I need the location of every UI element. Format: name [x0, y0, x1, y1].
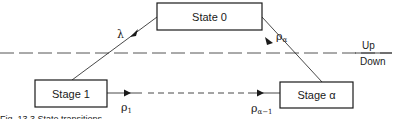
- rate-rho-alpha-subscript: α: [282, 36, 287, 44]
- rate-rho-alpha: ρα: [276, 30, 287, 44]
- node-stagea-label: Stage α: [297, 89, 336, 101]
- node-state0-label: State 0: [192, 11, 227, 23]
- arrow-rho-alpha-icon: [265, 37, 273, 45]
- rate-rho1: ρ1: [121, 101, 132, 115]
- rate-rho1-subscript: 1: [127, 107, 131, 115]
- rate-rho-alpha-minus-1: ρα−1: [251, 102, 273, 116]
- region-label-up: Up: [362, 40, 375, 51]
- region-label-down: Down: [360, 56, 386, 67]
- node-stage1-label: Stage 1: [52, 88, 90, 100]
- figure-caption: Fig. 13.3 State transitions: [0, 114, 103, 119]
- arrow-rho-alpha-minus-1-icon: [257, 90, 264, 97]
- arrow-rho1-icon: [124, 90, 131, 97]
- state-transition-diagram: λ ρα ρ1 ρα−1 State 0 Stage 1 Stage α Up …: [0, 0, 395, 119]
- rate-rho-alpha-minus-1-subscript: α−1: [257, 108, 272, 116]
- edge-state0-to-stage1: [72, 17, 157, 80]
- edge-stagea-to-state0: [262, 17, 322, 82]
- rate-lambda: λ: [117, 28, 124, 41]
